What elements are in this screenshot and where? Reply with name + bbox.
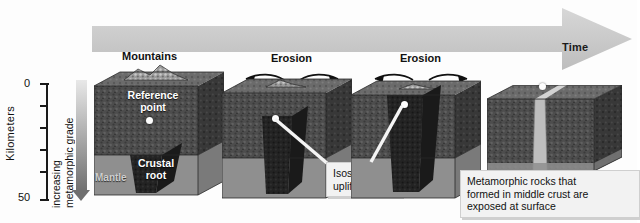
axis-tick-40 — [40, 171, 47, 173]
exposed-caption-line-1: Metamorphic rocks that — [467, 175, 576, 187]
erosion-arrows — [375, 75, 467, 80]
grade-line-1: increasing — [50, 160, 62, 208]
axis-tick-label-50: 50 — [18, 191, 30, 203]
stage-3-heading: Erosion — [400, 52, 441, 64]
axis-title: Kilometers — [4, 106, 16, 161]
axis-tick-label-0: 0 — [24, 77, 30, 89]
depth-axis: Kilometers 0 50 increasingmetamorphic gr… — [2, 78, 90, 210]
crustal-root-line-1: Crustal — [138, 157, 174, 169]
grade-arrow-icon — [72, 190, 90, 201]
isostatic-uplift-leader-line — [272, 116, 332, 168]
stage-1-crustal-root-label: Crustalroot — [126, 157, 186, 181]
axis-cap-top — [40, 83, 49, 85]
crustal-root-line-2: root — [146, 169, 166, 181]
metamorphic-grade-caption: increasingmetamorphic grade — [50, 78, 76, 208]
stage-1-heading: Mountains — [122, 50, 177, 62]
exposed-rocks-caption: Metamorphic rocks thatformed in middle c… — [460, 170, 640, 218]
stage-1-block — [94, 63, 224, 208]
exposed-caption-line-2: formed in middle crust are — [467, 188, 588, 200]
reference-point-line-2: point — [140, 101, 166, 113]
axis-cap-bottom — [40, 199, 49, 201]
axis-tick-30 — [40, 149, 47, 151]
stage-2-heading: Erosion — [271, 52, 312, 64]
exposed-caption-line-3: exposed at surface — [467, 200, 556, 212]
axis-line — [46, 83, 48, 201]
axis-tick-10 — [40, 105, 47, 107]
axis-tick-20 — [40, 127, 47, 129]
stage-3-leader-line — [369, 104, 405, 166]
stage-1-mantle-label: Mantle — [95, 172, 127, 183]
stage-1-reference-point-dot — [146, 117, 153, 124]
grade-gradient-bar — [76, 80, 87, 192]
stage-1-reference-point-label: Referencepoint — [113, 89, 193, 113]
reference-point-line-1: Reference — [128, 89, 179, 101]
stage-4-reference-point-dot — [539, 83, 546, 90]
time-arrow-label: Time — [562, 41, 588, 53]
